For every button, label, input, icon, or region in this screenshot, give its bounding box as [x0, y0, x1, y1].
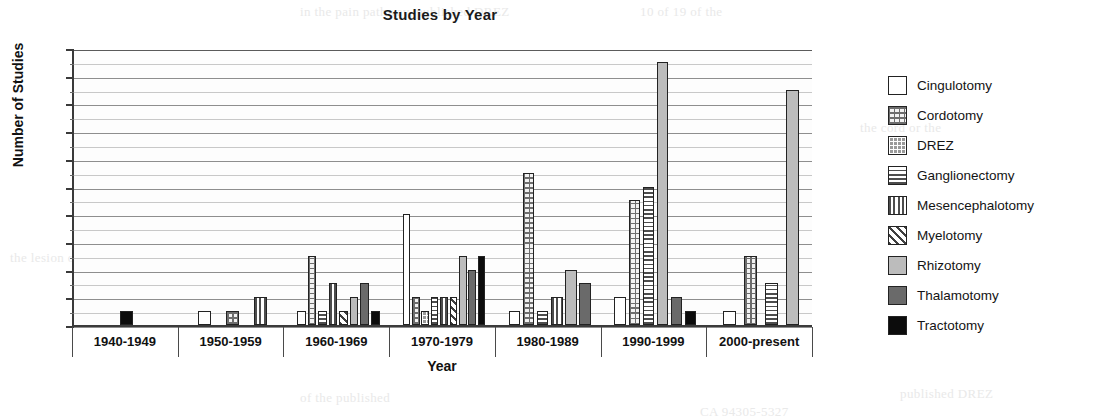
- x-tick-label-1940-1949: 1940-1949: [72, 334, 178, 349]
- x-tick-label-1990-1999: 1990-1999: [601, 334, 707, 349]
- bar-cordotomy-1980-1989[interactable]: [523, 173, 535, 325]
- y-tick-mark-minor: [70, 313, 74, 314]
- legend-item-cingulotomy[interactable]: Cingulotomy: [888, 70, 1103, 100]
- legend-item-drez[interactable]: DREZ: [888, 130, 1103, 160]
- bar-rhizotomy-2000-present[interactable]: [786, 90, 799, 325]
- bar-cordotomy-1970-1979[interactable]: [412, 297, 420, 325]
- legend-item-cordotomy[interactable]: Cordotomy: [888, 100, 1103, 130]
- bar-myelotomy-1960-1969[interactable]: [339, 311, 348, 325]
- studies-by-year-bar-chart: Studies by Year Number of Studies 024681…: [0, 0, 1106, 418]
- bar-mesencephalotomy-1960-1969[interactable]: [329, 283, 338, 325]
- legend-label: Myelotomy: [917, 228, 982, 243]
- y-tick-mark-minor: [70, 64, 74, 65]
- black-solid-swatch: [888, 316, 907, 335]
- y-tick-mark: [66, 104, 74, 106]
- y-tick-mark: [66, 243, 74, 245]
- y-tick-mark: [66, 132, 74, 134]
- legend-item-thalamotomy[interactable]: Thalamotomy: [888, 280, 1103, 310]
- white-empty-swatch: [888, 76, 907, 95]
- legend-item-mesencephalotomy[interactable]: Mesencephalotomy: [888, 190, 1103, 220]
- bar-series-container: [74, 50, 812, 325]
- bar-rhizotomy-1970-1979[interactable]: [459, 256, 467, 325]
- vertical-lines-swatch: [888, 196, 907, 215]
- legend-label: Cingulotomy: [917, 78, 992, 93]
- x-axis-separator: [812, 327, 813, 357]
- y-tick-mark: [66, 160, 74, 162]
- diagonal-lines-swatch: [888, 226, 907, 245]
- light-gray-solid-swatch: [888, 256, 907, 275]
- bar-cingulotomy-1950-1959[interactable]: [198, 311, 211, 325]
- bar-ganglionectomy-1980-1989[interactable]: [537, 311, 549, 325]
- bar-cordotomy-1950-1959[interactable]: [226, 311, 239, 325]
- bar-tractotomy-1990-1999[interactable]: [685, 311, 697, 325]
- legend-item-ganglionectomy[interactable]: Ganglionectomy: [888, 160, 1103, 190]
- bar-cordotomy-1990-1999[interactable]: [629, 200, 641, 325]
- y-tick-mark: [66, 49, 74, 51]
- x-tick-label-2000-present: 2000-present: [706, 334, 812, 349]
- bar-tractotomy-1940-1949[interactable]: [120, 311, 133, 325]
- bar-cordotomy-1960-1969[interactable]: [308, 256, 317, 325]
- chart-legend: CingulotomyCordotomyDREZGanglionectomyMe…: [888, 70, 1103, 340]
- x-tick-label-1960-1969: 1960-1969: [283, 334, 389, 349]
- bar-thalamotomy-1960-1969[interactable]: [360, 283, 369, 325]
- y-tick-mark: [66, 77, 74, 79]
- dark-gray-solid-swatch: [888, 286, 907, 305]
- bar-mesencephalotomy-1950-1959[interactable]: [254, 297, 267, 325]
- legend-item-myelotomy[interactable]: Myelotomy: [888, 220, 1103, 250]
- bar-rhizotomy-1990-1999[interactable]: [657, 62, 669, 325]
- y-tick-mark-minor: [70, 175, 74, 176]
- plot-area: 02468101214161820: [72, 50, 812, 327]
- y-tick-mark: [66, 298, 74, 300]
- bar-tractotomy-1960-1969[interactable]: [371, 311, 380, 325]
- legend-item-tractotomy[interactable]: Tractotomy: [888, 310, 1103, 340]
- legend-label: DREZ: [917, 138, 954, 153]
- bar-ganglionectomy-1970-1979[interactable]: [431, 297, 439, 325]
- light-grid-swatch: [888, 106, 907, 125]
- horizontal-lines-swatch: [888, 166, 907, 185]
- legend-label: Rhizotomy: [917, 258, 981, 273]
- x-tick-label-1970-1979: 1970-1979: [389, 334, 495, 349]
- bar-thalamotomy-1990-1999[interactable]: [671, 297, 683, 325]
- y-tick-mark-minor: [70, 119, 74, 120]
- dark-grid-swatch: [888, 136, 907, 155]
- bar-cingulotomy-1960-1969[interactable]: [297, 311, 306, 325]
- bar-ganglionectomy-1990-1999[interactable]: [643, 187, 655, 326]
- legend-label: Thalamotomy: [917, 288, 999, 303]
- y-axis-label: Number of Studies: [10, 5, 26, 205]
- y-tick-mark: [66, 271, 74, 273]
- x-axis-label: Year: [72, 358, 812, 374]
- chart-title: Studies by Year: [230, 6, 650, 23]
- bar-myelotomy-1970-1979[interactable]: [450, 297, 458, 325]
- bar-cordotomy-2000-present[interactable]: [744, 256, 757, 325]
- x-tick-label-1950-1959: 1950-1959: [178, 334, 284, 349]
- y-tick-mark-minor: [70, 92, 74, 93]
- bar-rhizotomy-1960-1969[interactable]: [350, 297, 359, 325]
- bar-mesencephalotomy-1970-1979[interactable]: [440, 297, 448, 325]
- bar-thalamotomy-1980-1989[interactable]: [579, 283, 591, 325]
- bar-rhizotomy-1980-1989[interactable]: [565, 270, 577, 325]
- bar-mesencephalotomy-1980-1989[interactable]: [551, 297, 563, 325]
- bar-drez-1970-1979[interactable]: [421, 311, 429, 325]
- bar-cingulotomy-1990-1999[interactable]: [614, 297, 626, 325]
- y-tick-mark-minor: [70, 230, 74, 231]
- y-tick-mark-minor: [70, 147, 74, 148]
- y-tick-mark-minor: [70, 285, 74, 286]
- legend-label: Ganglionectomy: [917, 168, 1015, 183]
- legend-label: Mesencephalotomy: [917, 198, 1034, 213]
- y-tick-mark: [66, 215, 74, 217]
- bar-cingulotomy-1970-1979[interactable]: [403, 214, 411, 325]
- bar-ganglionectomy-2000-present[interactable]: [765, 283, 778, 325]
- bar-cingulotomy-1980-1989[interactable]: [509, 311, 521, 325]
- bar-thalamotomy-1970-1979[interactable]: [468, 270, 476, 325]
- legend-item-rhizotomy[interactable]: Rhizotomy: [888, 250, 1103, 280]
- x-tick-label-1980-1989: 1980-1989: [495, 334, 601, 349]
- y-tick-mark-minor: [70, 202, 74, 203]
- y-tick-mark: [66, 188, 74, 190]
- bar-cingulotomy-2000-present[interactable]: [723, 311, 736, 325]
- legend-label: Tractotomy: [917, 318, 984, 333]
- bar-tractotomy-1970-1979[interactable]: [478, 256, 486, 325]
- legend-label: Cordotomy: [917, 108, 983, 123]
- x-axis: 1940-19491950-19591960-19691970-19791980…: [72, 327, 812, 357]
- bar-ganglionectomy-1960-1969[interactable]: [318, 311, 327, 325]
- y-tick-mark-minor: [70, 258, 74, 259]
